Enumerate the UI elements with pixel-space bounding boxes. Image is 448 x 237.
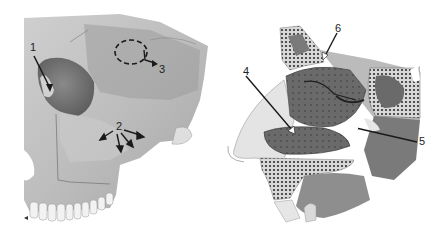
inferior-concha bbox=[264, 127, 350, 155]
skull-panel: 1 2 3 bbox=[0, 0, 224, 237]
label-5: 5 bbox=[419, 136, 425, 147]
nasal-section-illustration bbox=[224, 0, 448, 237]
label-2: 2 bbox=[116, 121, 122, 132]
nasal-section-panel: 4 5 6 bbox=[224, 0, 448, 237]
label-3: 3 bbox=[159, 64, 165, 75]
label-6: 6 bbox=[335, 23, 341, 34]
label-1: 1 bbox=[30, 42, 36, 53]
skull-illustration bbox=[0, 0, 224, 237]
label-4: 4 bbox=[243, 66, 249, 77]
anatomy-figure: 1 2 3 bbox=[0, 0, 448, 237]
middle-concha bbox=[286, 67, 366, 127]
